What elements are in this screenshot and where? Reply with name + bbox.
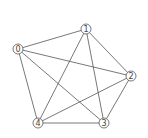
edge-0-2 <box>18 49 131 76</box>
edge-1-2 <box>86 29 131 76</box>
node-3: 3 <box>99 118 109 128</box>
edge-0-4 <box>18 49 38 123</box>
edge-0-1 <box>18 29 86 49</box>
node-label: 3 <box>101 119 106 128</box>
node-label: 4 <box>35 119 40 128</box>
edge-1-3 <box>86 29 104 123</box>
graph-diagram: 0 1 2 3 4 <box>0 0 148 138</box>
node-0: 0 <box>13 44 23 54</box>
edge-0-3 <box>18 49 104 123</box>
edge-1-4 <box>38 29 86 123</box>
node-label: 2 <box>128 72 133 81</box>
nodes: 0 1 2 3 4 <box>13 24 136 128</box>
node-2: 2 <box>126 71 136 81</box>
node-label: 1 <box>83 25 88 34</box>
node-label: 0 <box>15 45 20 54</box>
edges <box>18 29 131 123</box>
node-4: 4 <box>33 118 43 128</box>
node-1: 1 <box>81 24 91 34</box>
